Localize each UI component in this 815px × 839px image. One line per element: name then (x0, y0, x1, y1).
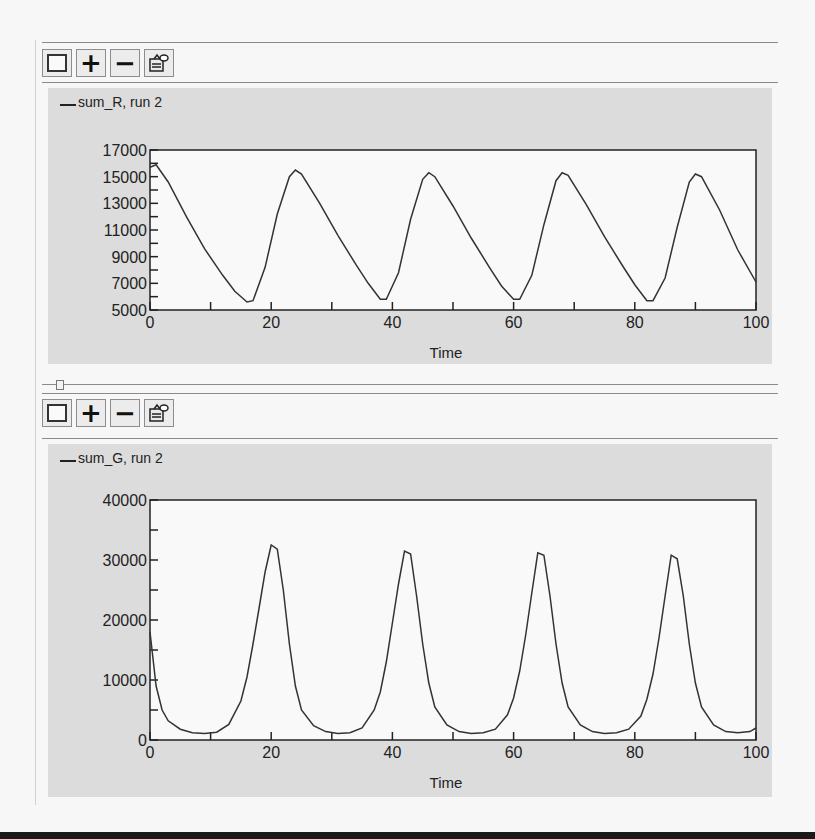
svg-text:10000: 10000 (103, 672, 148, 689)
plus-icon: + (80, 50, 102, 76)
svg-text:40000: 40000 (103, 492, 148, 509)
minus-icon: − (114, 400, 136, 426)
minus-icon: − (114, 50, 136, 76)
toolbar-bottom-divider-2 (42, 438, 778, 439)
fit-view-button[interactable] (42, 49, 72, 77)
svg-text:100: 100 (743, 314, 770, 331)
square-outline-icon (47, 54, 67, 72)
svg-text:7000: 7000 (111, 275, 147, 292)
svg-text:15000: 15000 (103, 169, 148, 186)
svg-text:13000: 13000 (103, 195, 148, 212)
properties-button[interactable] (144, 399, 174, 427)
svg-text:80: 80 (626, 314, 644, 331)
zoom-out-button[interactable]: − (110, 399, 140, 427)
square-outline-icon (47, 404, 67, 422)
svg-text:60: 60 (505, 744, 523, 761)
properties-icon (148, 53, 170, 73)
fit-view-button[interactable] (42, 399, 72, 427)
x-axis-label: Time (430, 344, 463, 361)
svg-text:5000: 5000 (111, 302, 147, 319)
svg-text:20000: 20000 (103, 612, 148, 629)
svg-text:9000: 9000 (111, 249, 147, 266)
svg-text:11000: 11000 (104, 222, 147, 239)
svg-text:100: 100 (743, 744, 770, 761)
plus-icon: + (80, 400, 102, 426)
line-chart-sum-g[interactable]: 400003000020000100000 020406080100 Time (48, 444, 772, 797)
line-chart-sum-r[interactable]: 17000150001300011000900070005000 0204060… (48, 88, 772, 364)
svg-text:60: 60 (505, 314, 523, 331)
splitter-handle[interactable] (56, 380, 64, 390)
zoom-in-button[interactable]: + (76, 49, 106, 77)
frame-left-edge (35, 40, 36, 805)
svg-text:0: 0 (146, 744, 155, 761)
zoom-in-button[interactable]: + (76, 399, 106, 427)
svg-text:40: 40 (384, 744, 402, 761)
svg-text:20: 20 (262, 744, 280, 761)
chart-panel-sum-g: sum_G, run 2 400003000020000100000 02040… (48, 444, 772, 797)
toolbar-bottom-divider (42, 82, 778, 83)
svg-text:80: 80 (626, 744, 644, 761)
toolbar-top-divider-2 (42, 393, 778, 394)
x-axis-label: Time (430, 774, 463, 791)
svg-text:40: 40 (384, 314, 402, 331)
properties-icon (148, 403, 170, 423)
svg-text:0: 0 (146, 314, 155, 331)
toolbar-1: + − (42, 46, 174, 80)
svg-text:20: 20 (262, 314, 280, 331)
chart-panel-sum-r: sum_R, run 2 170001500013000110009000700… (48, 88, 772, 364)
panel-splitter[interactable] (42, 380, 778, 390)
splitter-track (42, 384, 778, 385)
svg-text:30000: 30000 (103, 552, 148, 569)
zoom-out-button[interactable]: − (110, 49, 140, 77)
toolbar-2: + − (42, 396, 174, 430)
svg-text:17000: 17000 (103, 142, 148, 159)
toolbar-top-divider (42, 42, 778, 43)
window-bottom-edge (0, 832, 815, 839)
properties-button[interactable] (144, 49, 174, 77)
